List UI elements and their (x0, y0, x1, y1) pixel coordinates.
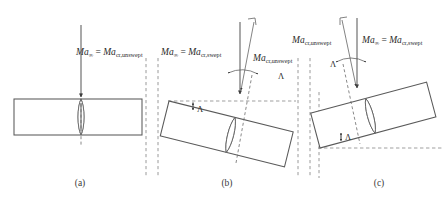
equation-label-c: Ma∞ = Macr,swept (361, 35, 423, 46)
lambda-label-c-upper: Λ (330, 59, 337, 69)
component-label-b: Macr,unswept (252, 53, 293, 64)
lambda-label-b-lower: Λ (197, 104, 204, 114)
panel-c: Ma∞ = Macr,swept Macr,unswept Λ Λ (c) (291, 17, 442, 189)
normal-mach-vector-c (342, 20, 356, 86)
panel-caption-c: (c) (374, 178, 385, 189)
lambda-label-c-lower: Λ (345, 132, 352, 142)
panel-a: Ma∞ = Macr,unswept (a) (14, 25, 143, 189)
equation-label-a: Ma∞ = Macr,unswept (75, 47, 143, 58)
wing-planform-swept-back (160, 101, 293, 167)
panel-caption-b: (b) (221, 178, 232, 189)
equation-label-b: Ma∞ = Macr,swept (160, 47, 222, 58)
component-label-c: Macr,unswept (291, 35, 332, 46)
panel-caption-a: (a) (75, 178, 86, 189)
panel-b: Ma∞ = Macr,swept Macr,unswept Λ Λ (b) (160, 18, 296, 189)
sweep-angle-arc-b (228, 70, 258, 74)
right-angle-marker-b (248, 18, 256, 25)
wing-sweep-diagram: Ma∞ = Macr,unswept (a) (0, 0, 444, 203)
right-angle-marker-c (340, 17, 347, 25)
lambda-label-b-upper: Λ (278, 71, 285, 81)
